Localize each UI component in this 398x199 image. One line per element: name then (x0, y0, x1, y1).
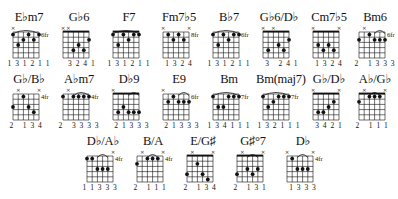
finger-dot (216, 105, 220, 109)
fretboard-grid: ×6fr (6, 26, 52, 60)
fingering-label: 1 3 1 2 1 1 (206, 59, 252, 68)
finger-dot (22, 95, 26, 99)
finger-dot (266, 48, 270, 52)
finger-dot (87, 38, 91, 42)
fretboard-grid: ×4fr (80, 150, 126, 184)
chord-diagram: E9 ×6fr 2 1 3 3 3 (156, 72, 202, 86)
chord-diagram: G♯°7 ×× 2 1 3 1 (230, 134, 276, 148)
fretboard-grid: ××4fr (6, 88, 52, 122)
finger-dot (277, 95, 281, 99)
finger-dot (156, 157, 160, 161)
chord-name: Bm(maj7) (256, 72, 302, 86)
muted-string-icon: × (61, 25, 66, 31)
fret-position-label: 6fr (191, 93, 199, 100)
finger-dot (187, 100, 191, 104)
chord-diagram: Cm7♭5 ×× 1 3 2 4 (306, 10, 352, 24)
muted-string-icon: × (161, 87, 166, 93)
chord-name: G♭/D♭ (306, 72, 352, 86)
muted-string-icon: × (261, 25, 266, 31)
finger-dot (357, 38, 361, 42)
finger-dot (16, 43, 20, 47)
fret-position-label: 6fr (241, 31, 249, 38)
finger-dot (322, 110, 326, 114)
chord-name: D♭9 (106, 72, 152, 86)
fingering-label: 3 4 2 1 (306, 121, 352, 130)
finger-dot (32, 38, 36, 42)
fingering-label: 1 3 1 2 1 1 (6, 59, 52, 68)
finger-dot (316, 110, 320, 114)
fretboard-grid: ×× (306, 88, 352, 122)
finger-dot (232, 33, 236, 37)
chord-diagram: Fm7♭5 ××8fr 1 3 2 4 (156, 10, 202, 24)
fretboard-grid: ×× (306, 26, 352, 60)
fretboard-grid: 7fr (206, 88, 252, 122)
muted-string-icon: × (140, 149, 145, 155)
finger-dot (72, 95, 76, 99)
fingering-label: 2 1 3 4 (6, 121, 52, 130)
fingering-label: 2 1 1 1 (130, 183, 176, 192)
finger-dot (122, 105, 126, 109)
finger-dot (373, 95, 377, 99)
finger-dot (290, 157, 294, 161)
finger-dot (116, 110, 120, 114)
fretboard-grid: ×× (56, 26, 102, 60)
finger-dot (11, 105, 15, 109)
finger-dot (132, 33, 136, 37)
finger-dot (383, 38, 387, 42)
finger-dot (256, 167, 260, 171)
finger-dot (261, 95, 265, 99)
fingering-label: 2 1 1 1 (352, 121, 398, 130)
chord-diagram: E♭m7 ×6fr 1 3 1 2 1 1 (6, 10, 52, 24)
muted-string-icon: × (311, 87, 316, 93)
fretboard-grid: ××4fr (280, 150, 326, 184)
muted-string-icon: × (190, 149, 195, 155)
finger-dot (368, 33, 372, 37)
fret-position-label: 4fr (165, 155, 173, 162)
finger-dot (216, 43, 220, 47)
finger-dot (32, 110, 36, 114)
fret-position-label: 4fr (91, 93, 99, 100)
fingering-label: 1 3 4 1 1 1 (206, 121, 252, 130)
chord-name: F7 (106, 10, 152, 24)
chord-name: G♭6 (56, 10, 102, 24)
finger-dot (172, 95, 176, 99)
fret-position-label: 8fr (191, 31, 199, 38)
finger-dot (151, 157, 155, 161)
chord-name: Bm (206, 72, 252, 86)
finger-dot (201, 172, 205, 176)
fret-position-label: 4fr (315, 155, 323, 162)
finger-dot (135, 162, 139, 166)
chord-name: A♭m7 (56, 72, 102, 86)
chord-name: Fm7♭5 (156, 10, 202, 24)
chord-diagram: B/A ××4fr 2 1 1 1 (130, 134, 176, 148)
muted-string-icon: × (66, 87, 71, 93)
finger-dot (166, 33, 170, 37)
fretboard-grid: ×6fr (156, 88, 202, 122)
muted-string-icon: × (111, 87, 116, 93)
finger-dot (332, 48, 336, 52)
muted-string-icon: × (383, 87, 388, 93)
fret-position-label: 4fr (41, 93, 49, 100)
muted-string-icon: × (271, 25, 276, 31)
finger-dot (27, 33, 31, 37)
fingering-label: 2 1 3 3 3 (156, 121, 202, 130)
finger-dot (137, 33, 141, 37)
finger-dot (277, 43, 281, 47)
finger-dot (172, 38, 176, 42)
finger-dot (246, 167, 250, 171)
chord-diagram: A♭m7 ×4fr 2 3 3 3 3 (56, 72, 102, 86)
fingering-label: 1 3 2 1 1 1 (256, 121, 302, 130)
finger-dot (22, 38, 26, 42)
finger-dot (27, 105, 31, 109)
fretboard-grid: ×6fr (352, 26, 398, 60)
fretboard-grid: ×× (180, 150, 226, 184)
finger-dot (332, 100, 336, 104)
finger-dot (196, 162, 200, 166)
finger-dot (378, 95, 382, 99)
finger-dot (282, 95, 286, 99)
finger-dot (301, 167, 305, 171)
fretboard-grid: × (106, 88, 152, 122)
finger-dot (287, 38, 291, 42)
chord-diagram: G♭/D♭ ×× 3 4 2 1 (306, 72, 352, 86)
fingering-label: 3 2 4 1 (256, 59, 302, 68)
